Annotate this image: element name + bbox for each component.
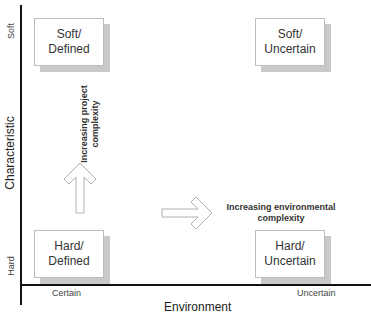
y-axis-line <box>20 5 22 305</box>
quadrant-hard-uncertain: Hard/ Uncertain <box>255 230 325 278</box>
x-tick-certain: Certain <box>52 288 81 298</box>
right-arrow-icon <box>161 196 213 230</box>
quadrant-label: Soft/ Uncertain <box>255 18 325 66</box>
quadrant-label: Hard/ Defined <box>34 230 104 278</box>
y-tick-hard: Hard <box>6 255 18 277</box>
quadrant-soft-uncertain: Soft/ Uncertain <box>255 18 325 66</box>
x-axis-title: Environment <box>164 300 231 314</box>
project-complexity-annotation: Increasing project complexity <box>79 74 103 174</box>
y-axis-title: Characteristic <box>3 108 19 198</box>
quadrant-label: Soft/ Defined <box>34 18 104 66</box>
environmental-complexity-annotation: Increasing environmental complexity <box>220 202 342 224</box>
quadrant-hard-defined: Hard/ Defined <box>34 230 104 278</box>
x-axis-line <box>20 284 371 286</box>
y-tick-soft: Soft <box>6 21 18 41</box>
quadrant-soft-defined: Soft/ Defined <box>34 18 104 66</box>
up-arrow-icon <box>62 162 98 214</box>
x-tick-uncertain: Uncertain <box>297 288 336 298</box>
quadrant-label: Hard/ Uncertain <box>255 230 325 278</box>
